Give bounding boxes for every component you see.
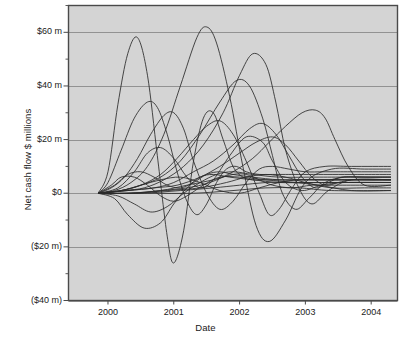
x-axis-tick-label: 2004 — [341, 307, 401, 317]
x-axis-tick-label: 2001 — [144, 307, 204, 317]
x-axis-tick-label: 2003 — [275, 307, 335, 317]
chart-container: Net cash flow $ millions Date $60 m$40 m… — [0, 0, 411, 341]
x-axis-tick-label: 2000 — [78, 307, 138, 317]
chart-plot-area — [0, 0, 411, 341]
y-axis-title: Net cash flow $ millions — [22, 75, 33, 245]
y-axis-tick-label: $20 m — [0, 134, 62, 144]
y-axis-tick-label: ($40 m) — [0, 295, 62, 305]
plot-background — [69, 6, 398, 301]
y-axis-tick-label: $40 m — [0, 80, 62, 90]
y-axis-tick-label: $60 m — [0, 26, 62, 36]
y-axis-tick-label: $0 — [0, 187, 62, 197]
x-axis-title: Date — [0, 322, 411, 333]
x-axis-tick-label: 2002 — [210, 307, 270, 317]
y-axis-tick-label: ($20 m) — [0, 241, 62, 251]
